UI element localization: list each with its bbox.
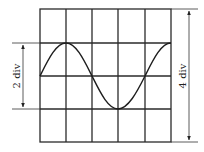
- oscilloscope-diagram: 2 div 4 div: [0, 0, 204, 152]
- screen-grid: [40, 9, 171, 142]
- left-dimension-label: 2 div: [11, 63, 22, 88]
- right-dimension-label: 4 div: [177, 63, 188, 88]
